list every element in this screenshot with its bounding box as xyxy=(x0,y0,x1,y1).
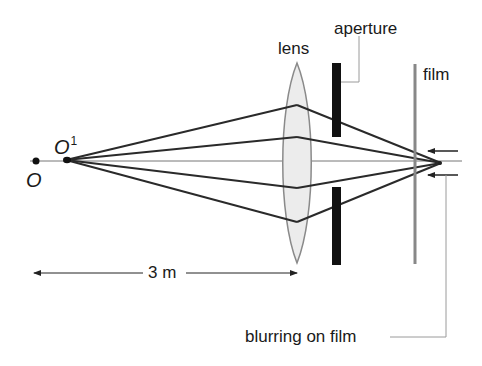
aperture-bottom-bar xyxy=(332,187,341,265)
label-lens: lens xyxy=(278,40,309,57)
aperture-top-bar xyxy=(332,63,341,137)
lens-diagram: O O1 lens aperture film 3 m blurring on … xyxy=(0,0,482,366)
refracted-rays xyxy=(297,105,441,222)
label-aperture: aperture xyxy=(334,20,397,37)
convergence-point xyxy=(438,161,442,165)
label-O1: O1 xyxy=(54,137,77,157)
label-distance: 3 m xyxy=(148,264,176,281)
film-plane xyxy=(414,64,417,264)
label-blurring: blurring on film xyxy=(245,328,357,345)
blurring-leader-line xyxy=(390,175,446,337)
lens-shape xyxy=(283,63,312,263)
label-O1-superscript: 1 xyxy=(71,134,78,148)
aperture-leader-line xyxy=(341,36,359,82)
incident-rays xyxy=(66,105,297,222)
diagram-canvas xyxy=(0,0,482,366)
label-film: film xyxy=(423,66,449,83)
object-point-O xyxy=(33,158,40,165)
label-O1-main: O xyxy=(54,136,70,158)
label-O: O xyxy=(26,170,42,190)
